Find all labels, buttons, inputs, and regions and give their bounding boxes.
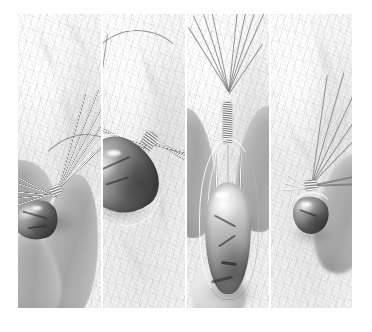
- photo-collage: Step 1 — wire bundle gathered over stone…: [18, 14, 352, 308]
- contact-shadow: [201, 280, 257, 304]
- contact-shadow: [289, 224, 335, 246]
- collage-panel-3: Step 3 — wire cage closed around the sto…: [187, 14, 269, 308]
- contact-shadow: [34, 210, 80, 236]
- collage-panel-2: Step 2 — wires bound and stone cradled s…: [103, 14, 185, 308]
- stone-highlight: [215, 192, 229, 198]
- collage-panel-4: Step 4 — finished wrap viewed from the s…: [271, 14, 352, 308]
- collage-panel-1: Step 1 — wire bundle gathered over stone…: [18, 14, 101, 308]
